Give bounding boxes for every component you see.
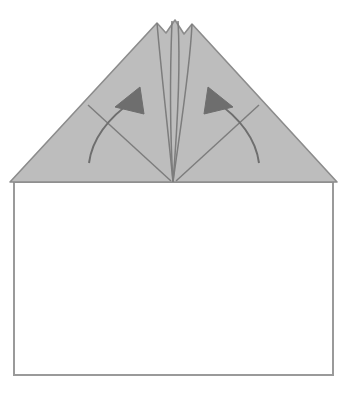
origami-fold-diagram	[0, 0, 347, 394]
paper-base-rectangle	[14, 182, 333, 375]
diagram-page: folding	[0, 0, 347, 394]
